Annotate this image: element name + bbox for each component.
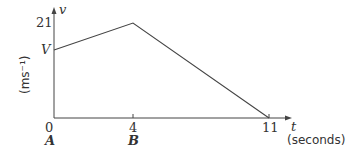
point-label-B: B (127, 133, 139, 148)
velocity-time-graph: v 21 V (ms⁻¹) 0 4 11 t (seconds) A B (0, 0, 355, 155)
y-axis-symbol: v (59, 2, 67, 17)
x-axis-units: (seconds) (287, 133, 345, 147)
y-tick-21: 21 (36, 15, 53, 30)
y-tick-V: V (41, 42, 52, 57)
y-axis-arrow-icon (52, 7, 57, 14)
x-axis-symbol: t (291, 119, 297, 134)
y-axis-units: (ms⁻¹) (18, 56, 32, 94)
velocity-line (54, 23, 269, 118)
x-tick-11: 11 (262, 120, 279, 135)
point-label-A: A (43, 133, 55, 148)
